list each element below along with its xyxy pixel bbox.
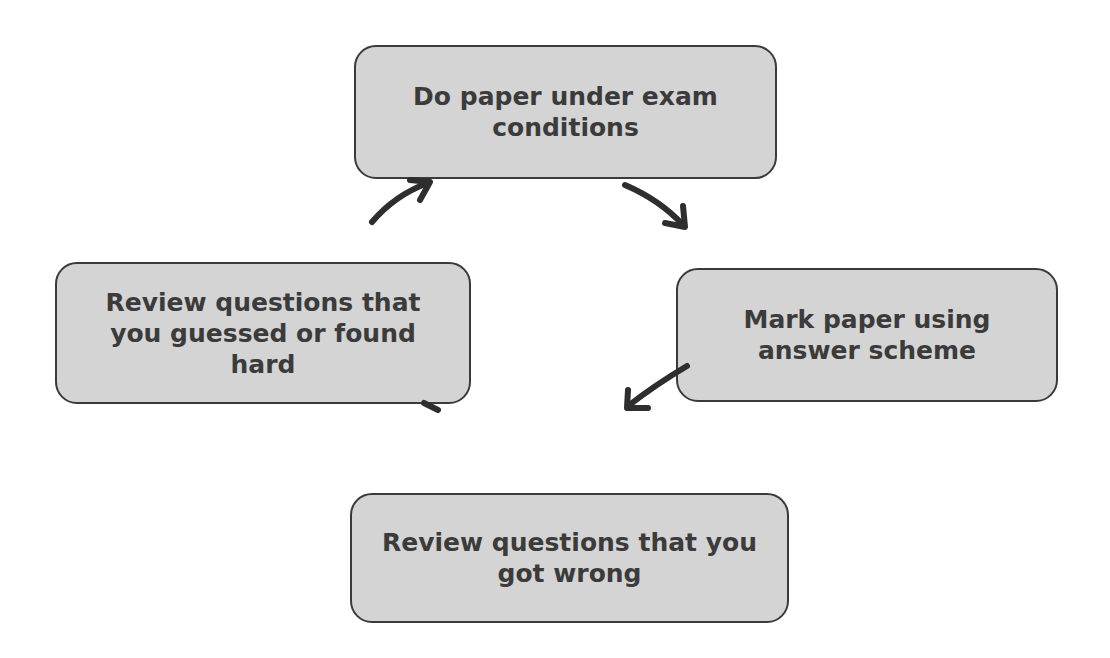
step-mark-paper: Mark paper using answer scheme: [676, 268, 1058, 402]
step-mark-paper-label: Mark paper using answer scheme: [702, 304, 1032, 366]
step-review-wrong-label: Review questions that you got wrong: [376, 527, 763, 589]
step-do-paper-label: Do paper under exam conditions: [380, 81, 751, 143]
step-do-paper: Do paper under exam conditions: [354, 45, 777, 179]
arrow-top-to-right-icon: [625, 185, 685, 227]
arrow-left-to-top-icon: [372, 180, 430, 222]
step-review-guessed: Review questions that you guessed or fou…: [55, 262, 471, 404]
step-review-wrong: Review questions that you got wrong: [350, 493, 789, 623]
arrow-bottom-to-left-icon: [424, 403, 438, 410]
step-review-guessed-label: Review questions that you guessed or fou…: [81, 287, 445, 380]
